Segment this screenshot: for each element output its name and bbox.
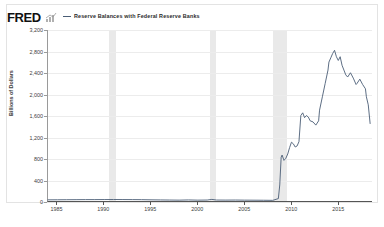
- y-axis-tick-mark: [44, 159, 47, 160]
- y-axis-tick-label: 3,200: [5, 27, 43, 33]
- x-axis-tick-label: 2010: [285, 206, 297, 212]
- fred-logo[interactable]: FRED: [7, 11, 41, 24]
- x-axis-tick-label: 1985: [50, 206, 62, 212]
- x-axis-tick-label: 2000: [191, 206, 203, 212]
- chart-legend: Reserve Balances with Federal Reserve Ba…: [63, 13, 200, 20]
- x-axis-tick-mark: [338, 202, 339, 205]
- chart-figure: FRED Reserve Balances with Federal Reser…: [0, 0, 384, 227]
- y-axis-tick-mark: [44, 181, 47, 182]
- x-axis-tick-label: 2005: [238, 206, 250, 212]
- x-axis-tick-label: 1995: [144, 206, 156, 212]
- y-axis-tick-mark: [44, 73, 47, 74]
- y-axis-tick-label: 400: [5, 178, 43, 184]
- y-axis-tick-mark: [44, 116, 47, 117]
- y-axis-tick-label: 1,600: [5, 113, 43, 119]
- y-axis-tick-label: 800: [5, 156, 43, 162]
- fred-chart-screenshot: FRED Reserve Balances with Federal Reser…: [0, 0, 384, 227]
- x-axis-tick-mark: [244, 202, 245, 205]
- y-axis-tick-label: 1,200: [5, 135, 43, 141]
- x-axis-tick-label: 1990: [97, 206, 109, 212]
- y-axis-tick-label: 2,800: [5, 49, 43, 55]
- plot-area: [47, 30, 372, 202]
- y-axis-tick-mark: [44, 95, 47, 96]
- y-axis-tick-mark: [44, 202, 47, 203]
- y-axis-tick-mark: [44, 30, 47, 31]
- x-axis-tick-mark: [150, 202, 151, 205]
- x-axis-tick-label: 2015: [332, 206, 344, 212]
- y-axis-tick-label: 0: [5, 199, 43, 205]
- y-axis-tick-label: 2,400: [5, 70, 43, 76]
- legend-series-label: Reserve Balances with Federal Reserve Ba…: [74, 13, 200, 20]
- x-axis-tick-mark: [197, 202, 198, 205]
- x-axis-tick-mark: [291, 202, 292, 205]
- series-line: [48, 30, 372, 201]
- y-axis-tick-mark: [44, 138, 47, 139]
- y-axis-tick-label: 2,000: [5, 92, 43, 98]
- x-axis-tick-mark: [56, 202, 57, 205]
- x-axis-tick-mark: [103, 202, 104, 205]
- y-axis-tick-mark: [44, 52, 47, 53]
- legend-line-swatch: [63, 16, 71, 17]
- chart-header: FRED Reserve Balances with Federal Reser…: [0, 0, 384, 27]
- bar-chart-icon: [46, 13, 57, 22]
